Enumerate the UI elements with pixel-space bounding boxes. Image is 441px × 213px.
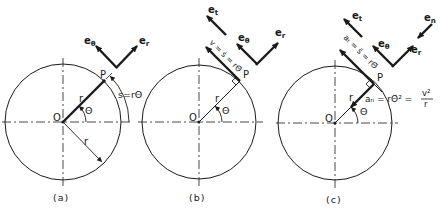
e-r-vector [392,46,413,67]
radius-thin [335,107,351,123]
radius-op [199,81,240,122]
radius-op [63,81,104,122]
angle-label: Θ [222,105,229,116]
normal-accel-label: aₙ = rΘ̇² = [365,94,412,104]
e-r-vector [256,43,278,65]
arc-length-label: s=rΘ [118,89,142,100]
e-r-vector [116,46,137,68]
tangential-accel-label: aₜ = s̈ = rΘ̈ [342,33,380,71]
radius-dimension [63,122,102,162]
radius-label-2: r [84,136,89,147]
e-theta-label: eθ [84,35,96,48]
panel-c: et en eθ er aₜ = s̈ = rΘ̈ P r aₙ = rΘ̇² … [276,10,436,205]
angle-label: Θ [85,105,92,116]
circular-motion-diagram: eθ er P s=rΘ r Θ O r (a) et eθ er v = ṡ … [0,0,441,213]
caption-b: (b) [189,192,205,203]
e-n-vector [418,24,432,38]
point-p-label: P [100,69,106,80]
origin-o [333,121,336,124]
origin-label: O [325,113,333,124]
origin-label: O [189,112,197,123]
e-r-label: er [139,35,150,48]
angle-arc [215,106,222,122]
radius-label: r [349,92,354,103]
normal-accel-fraction-den: r [424,99,428,109]
caption-a: (a) [53,192,69,203]
normal-accel-fraction-num: v² [422,88,430,98]
angle-arc [351,107,358,123]
e-theta-label: eθ [238,32,250,45]
panel-a: eθ er P s=rΘ r Θ O r (a) [2,35,150,203]
point-p-label: P [243,69,249,80]
e-theta-vector [96,46,117,68]
angle-label: Θ [360,106,367,117]
e-t-label: et [208,4,219,17]
panel-b: et eθ er v = ṡ = rΘ̇ P r Θ O (b) [138,4,286,203]
point-p-label: P [377,72,383,83]
origin-o [197,120,200,123]
arc-tick [106,73,112,79]
e-theta-vector [237,44,257,64]
caption-c: (c) [326,194,342,205]
velocity-label: v = ṡ = rΘ̇ [208,38,244,74]
e-theta-label: eθ [378,38,390,51]
e-t-vector [207,16,226,35]
e-n-label: en [424,12,436,25]
e-r-label: er [275,27,286,40]
e-t-label: et [352,10,363,23]
origin-label: O [53,112,61,123]
e-r-label: er [411,44,422,57]
